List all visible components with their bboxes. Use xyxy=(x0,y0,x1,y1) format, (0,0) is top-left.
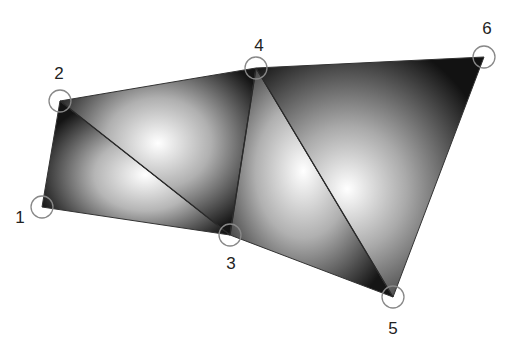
vertex-label-5: 5 xyxy=(388,319,397,338)
triangle-strip-diagram: 123456 xyxy=(0,0,514,352)
vertex-label-1: 1 xyxy=(15,208,24,227)
triangles xyxy=(42,57,484,297)
vertex-label-4: 4 xyxy=(254,36,263,55)
vertex-label-3: 3 xyxy=(226,254,235,273)
vertex-label-2: 2 xyxy=(54,64,63,83)
vertex-label-6: 6 xyxy=(482,19,491,38)
